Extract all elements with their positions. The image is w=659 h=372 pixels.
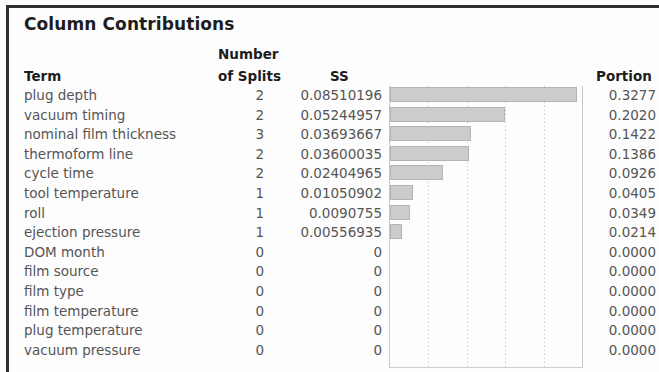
cell-splits: 2 (198, 164, 264, 184)
bar-slot (390, 86, 582, 106)
cell-term: cycle time (24, 164, 94, 184)
cell-ss: 0 (262, 321, 382, 341)
cell-term: film type (24, 282, 84, 302)
cell-term: vacuum pressure (24, 341, 141, 361)
column-header-term: Term (24, 68, 61, 84)
bar-slot (390, 204, 582, 224)
bar-vacuum-timing (390, 107, 505, 122)
bar-roll (390, 205, 410, 220)
bar-slot (390, 184, 582, 204)
cell-splits: 0 (198, 243, 264, 263)
cell-term: ejection pressure (24, 223, 140, 243)
cell-splits: 1 (198, 184, 264, 204)
cell-term: DOM month (24, 243, 105, 263)
cell-splits: 0 (198, 302, 264, 322)
cell-splits: 0 (198, 321, 264, 341)
bar-slot (390, 341, 582, 361)
bar-slot (390, 223, 582, 243)
bar-slot (390, 145, 582, 165)
cell-splits: 0 (198, 282, 264, 302)
bar-slot (390, 164, 582, 184)
page-title: Column Contributions (24, 14, 235, 34)
bar-nominal-film-thickness (390, 126, 471, 141)
cell-ss: 0.03693667 (262, 125, 382, 145)
ss-bar-chart (389, 86, 583, 368)
cell-term: tool temperature (24, 184, 139, 204)
column-header-splits-line1: Number (218, 46, 278, 62)
cell-splits: 2 (198, 86, 264, 106)
cell-term: roll (24, 204, 45, 224)
bar-slot (390, 243, 582, 263)
cell-ss: 0 (262, 302, 382, 322)
panel-top-rule (8, 5, 659, 8)
bar-slot (390, 321, 582, 341)
cell-ss: 0 (262, 243, 382, 263)
cell-ss: 0.00556935 (262, 223, 382, 243)
cell-term: nominal film thickness (24, 125, 176, 145)
cell-ss: 0.08510196 (262, 86, 382, 106)
column-contributions-panel: Column Contributions Term Number of Spli… (0, 0, 659, 372)
cell-term: plug depth (24, 86, 97, 106)
cell-term: vacuum timing (24, 106, 125, 126)
bar-tool-temperature (390, 185, 413, 200)
cell-ss: 0.02404965 (262, 164, 382, 184)
bar-slot (390, 262, 582, 282)
cell-ss: 0.03600035 (262, 145, 382, 165)
cell-ss: 0 (262, 341, 382, 361)
cell-splits: 0 (198, 341, 264, 361)
bar-plug-depth (390, 87, 577, 102)
column-header-splits-line2: of Splits (218, 68, 281, 84)
column-header-portion: Portion (596, 68, 652, 84)
cell-term: plug temperature (24, 321, 143, 341)
cell-ss: 0.0090755 (262, 204, 382, 224)
cell-term: film source (24, 262, 99, 282)
cell-ss: 0 (262, 262, 382, 282)
cell-ss: 0.05244957 (262, 106, 382, 126)
bar-slot (390, 125, 582, 145)
cell-splits: 1 (198, 204, 264, 224)
chart-bars (390, 86, 582, 367)
bar-slot (390, 106, 582, 126)
bar-ejection-pressure (390, 224, 402, 239)
cell-splits: 2 (198, 145, 264, 165)
cell-term: thermoform line (24, 145, 133, 165)
bar-slot (390, 302, 582, 322)
bar-thermoform-line (390, 146, 469, 161)
cell-splits: 2 (198, 106, 264, 126)
cell-splits: 1 (198, 223, 264, 243)
bar-cycle-time (390, 165, 443, 180)
bar-slot (390, 282, 582, 302)
cell-splits: 0 (198, 262, 264, 282)
cell-ss: 0 (262, 282, 382, 302)
cell-splits: 3 (198, 125, 264, 145)
cell-ss: 0.01050902 (262, 184, 382, 204)
column-header-ss: SS (330, 68, 349, 84)
cell-term: film temperature (24, 302, 139, 322)
